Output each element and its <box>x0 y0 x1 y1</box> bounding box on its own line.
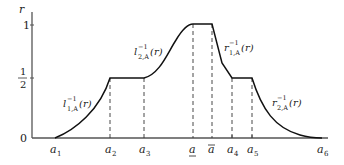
y-axis-label: r <box>19 3 25 16</box>
svg-text:1,A: 1,A <box>67 105 78 113</box>
x-label-a-upper: a <box>208 143 215 156</box>
y-tick-label-half-num: 1 <box>20 66 26 77</box>
x-label-a1: a 1 <box>50 143 61 158</box>
svg-text:−1: −1 <box>229 39 239 47</box>
svg-text:−1: −1 <box>138 43 148 51</box>
svg-text:1: 1 <box>57 150 61 158</box>
x-label-a3: a 3 <box>139 143 150 158</box>
svg-text:a: a <box>50 143 57 156</box>
label-r2: r −1 2,A (r) <box>272 94 302 112</box>
y-tick-label-half-den: 2 <box>20 79 26 90</box>
svg-text:a: a <box>247 143 254 156</box>
svg-text:(r): (r) <box>289 97 302 108</box>
svg-text:2,A: 2,A <box>138 53 149 61</box>
svg-text:−1: −1 <box>277 94 287 102</box>
svg-text:2,A: 2,A <box>277 104 288 112</box>
svg-text:2: 2 <box>112 150 116 158</box>
y-tick-label-0: 0 <box>20 132 27 145</box>
membership-curve <box>55 24 322 138</box>
label-r1: r −1 1,A (r) <box>224 39 254 57</box>
svg-text:−1: −1 <box>67 95 77 103</box>
y-tick-label-1: 1 <box>23 19 30 32</box>
x-label-a-lower: a <box>189 143 196 156</box>
svg-text:l: l <box>134 46 137 57</box>
label-l2: l −1 2,A (r) <box>134 43 163 61</box>
svg-text:5: 5 <box>254 150 258 158</box>
svg-text:a: a <box>317 143 324 156</box>
x-label-a2: a 2 <box>105 143 116 158</box>
svg-text:6: 6 <box>324 150 329 158</box>
svg-text:a: a <box>189 143 196 156</box>
x-label-a5: a 5 <box>247 143 258 158</box>
fuzzy-number-diagram: r 1 1 2 0 l −1 1,A (r) l −1 2,A (r) r −1… <box>0 0 344 165</box>
svg-text:a: a <box>227 143 234 156</box>
svg-text:1,A: 1,A <box>229 49 240 57</box>
x-label-a4: a 4 <box>227 143 239 158</box>
svg-text:(r): (r) <box>241 42 254 53</box>
svg-text:(r): (r) <box>150 46 163 57</box>
x-label-a6: a 6 <box>317 143 329 158</box>
svg-text:(r): (r) <box>79 98 92 109</box>
svg-text:l: l <box>63 98 66 109</box>
label-l1: l −1 1,A (r) <box>63 95 92 113</box>
svg-text:4: 4 <box>234 150 239 158</box>
svg-text:3: 3 <box>146 150 150 158</box>
svg-text:a: a <box>139 143 146 156</box>
svg-text:a: a <box>105 143 112 156</box>
